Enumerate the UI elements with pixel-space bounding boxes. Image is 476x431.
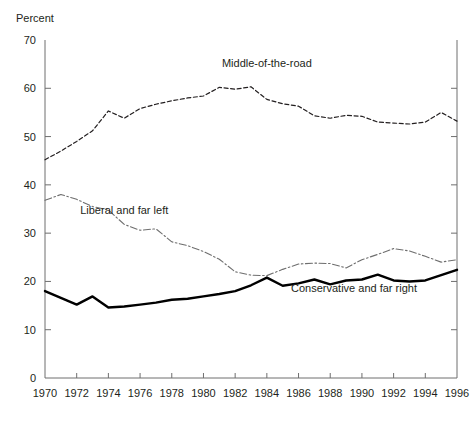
x-tick-label: 1988 [318, 387, 342, 399]
series-annotation-1: Middle-of-the-road [222, 57, 312, 69]
x-tick-label: 1976 [128, 387, 152, 399]
y-tick-label: 60 [24, 82, 36, 94]
x-tick-label-group: 1970197219741976197819801982198419861988… [33, 387, 469, 399]
series-annotation-2: Liberal and far left [80, 204, 168, 216]
y-tick-label: 0 [30, 372, 36, 384]
x-tick-label: 1984 [255, 387, 279, 399]
x-tick-label: 1992 [381, 387, 405, 399]
x-tick-label: 1990 [350, 387, 374, 399]
y-axis-title-group: Percent [16, 12, 54, 24]
y-tick-label: 40 [24, 179, 36, 191]
x-tick-label: 1996 [445, 387, 469, 399]
line-chart: Percent 010203040506070 1970197219741976… [0, 0, 476, 431]
x-tick-label: 1970 [33, 387, 57, 399]
y-tick-label: 10 [24, 324, 36, 336]
x-tick-label: 1974 [96, 387, 120, 399]
y-axis-title: Percent [16, 12, 54, 24]
y-tick-label: 20 [24, 275, 36, 287]
x-tick-label: 1982 [223, 387, 247, 399]
x-tick-label: 1986 [286, 387, 310, 399]
y-tick-label: 30 [24, 227, 36, 239]
x-tick-label: 1972 [64, 387, 88, 399]
x-tick-label: 1980 [191, 387, 215, 399]
y-tick-label: 50 [24, 131, 36, 143]
series-path-group [45, 87, 457, 308]
x-tick-label: 1994 [413, 387, 437, 399]
x-tick-label: 1978 [160, 387, 184, 399]
series-annotation-3: Conservative and far right [291, 282, 417, 294]
tick-mark-group [45, 88, 457, 378]
y-tick-label-group: 010203040506070 [24, 34, 36, 384]
chart-container: Percent 010203040506070 1970197219741976… [0, 0, 476, 431]
series-line-1 [45, 87, 457, 160]
y-tick-label: 70 [24, 34, 36, 46]
